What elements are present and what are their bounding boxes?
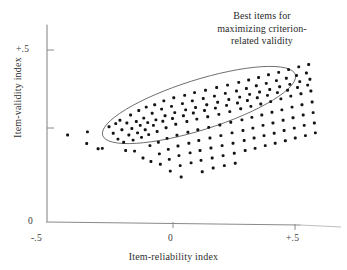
data-point	[202, 97, 205, 100]
data-point	[164, 114, 167, 117]
x-axis-line-extension	[300, 225, 341, 227]
data-point	[247, 78, 250, 81]
data-point	[151, 112, 154, 115]
data-point	[308, 78, 311, 81]
data-point	[142, 117, 145, 120]
data-point	[305, 72, 308, 75]
data-point	[214, 107, 217, 110]
data-point	[118, 119, 121, 122]
data-point	[191, 99, 194, 102]
data-point	[197, 139, 200, 142]
data-point	[209, 137, 212, 140]
data-point	[190, 161, 193, 164]
data-point	[176, 134, 179, 137]
data-point	[204, 89, 207, 92]
data-point	[232, 142, 235, 145]
data-point	[140, 136, 143, 139]
data-point	[313, 121, 316, 124]
x-tick-label-minus-five: -.5	[31, 233, 42, 243]
data-point	[282, 119, 285, 122]
best-items-annotation: Best items for maximizing criterion- rel…	[196, 10, 328, 48]
data-point	[225, 104, 228, 107]
data-point	[187, 142, 190, 145]
data-point	[136, 131, 139, 134]
data-point	[222, 154, 225, 157]
data-point	[171, 117, 174, 120]
data-point	[130, 127, 133, 130]
data-point	[213, 95, 216, 98]
data-point	[300, 92, 303, 95]
data-point	[254, 147, 257, 150]
data-point	[146, 121, 149, 124]
data-point	[112, 132, 115, 135]
data-point	[108, 125, 111, 128]
data-point	[250, 116, 253, 119]
data-point	[186, 131, 189, 134]
data-point	[237, 81, 240, 84]
data-point	[133, 150, 136, 153]
data-point	[303, 124, 306, 127]
data-point	[278, 85, 281, 88]
data-point	[248, 93, 251, 96]
scatter-points-group	[66, 63, 317, 178]
data-point	[263, 134, 266, 137]
data-point	[173, 111, 176, 114]
annotation-line-1: Best items for	[196, 10, 328, 23]
data-point	[256, 96, 259, 99]
data-point	[160, 108, 163, 111]
data-point	[85, 142, 88, 145]
data-point	[218, 124, 221, 127]
data-point	[215, 86, 218, 89]
data-point	[239, 107, 242, 110]
data-point	[154, 118, 157, 121]
data-point	[285, 77, 288, 80]
data-point	[189, 151, 192, 154]
data-point	[223, 164, 226, 167]
data-point	[298, 80, 301, 83]
data-point	[205, 103, 208, 106]
data-point	[258, 91, 261, 94]
data-point	[296, 86, 299, 89]
data-point	[147, 133, 150, 136]
data-point	[253, 137, 256, 140]
data-point	[265, 82, 268, 85]
data-point	[217, 113, 220, 116]
data-point	[226, 84, 229, 87]
data-point	[264, 144, 267, 147]
data-point	[196, 128, 199, 131]
data-point	[287, 68, 290, 71]
data-point	[255, 84, 258, 87]
data-point	[165, 126, 168, 129]
data-point	[312, 111, 315, 114]
data-point	[167, 148, 170, 151]
data-point	[137, 109, 140, 112]
data-point	[268, 88, 271, 91]
data-point	[295, 74, 298, 77]
data-point	[156, 130, 159, 133]
x-tick-label-zero: 0	[168, 233, 173, 243]
data-point	[153, 103, 156, 106]
data-point	[245, 87, 248, 90]
data-point	[199, 149, 202, 152]
data-point	[277, 71, 280, 74]
data-point	[148, 144, 151, 147]
x-axis-title: Item-reliability index	[0, 251, 347, 262]
data-point	[114, 122, 117, 125]
data-point	[181, 102, 184, 105]
data-point	[307, 63, 310, 66]
data-point	[192, 112, 195, 115]
data-point	[200, 159, 203, 162]
data-point	[135, 120, 138, 123]
data-point	[259, 103, 262, 106]
data-point	[251, 127, 254, 130]
data-point	[144, 128, 147, 131]
y-axis-title: Item-validity index	[12, 33, 23, 163]
data-point	[291, 106, 294, 109]
data-point	[216, 101, 219, 104]
data-point	[306, 84, 309, 87]
data-point	[302, 114, 305, 117]
data-point	[243, 139, 246, 142]
data-point	[227, 98, 230, 101]
data-point	[132, 139, 135, 142]
data-point	[195, 118, 198, 121]
